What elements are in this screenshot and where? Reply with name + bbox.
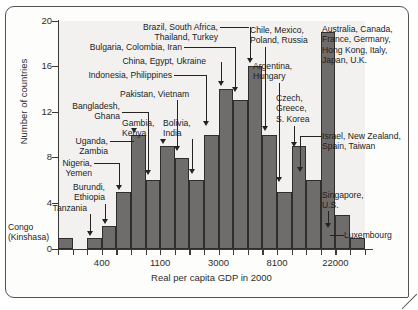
x-tick-7 bbox=[160, 250, 161, 255]
leader-bolivia bbox=[192, 139, 193, 170]
annotation-luxembourg: Luxembourg bbox=[344, 230, 406, 240]
annotation-burundi: Burundi, Ethiopia bbox=[40, 182, 105, 203]
x-tick-19 bbox=[335, 250, 336, 255]
arrow-tanzania bbox=[87, 231, 93, 236]
annotation-bulgaria: Bulgaria, Colombia, Iran bbox=[56, 42, 182, 52]
bar-3 bbox=[87, 238, 102, 249]
x-tick-20 bbox=[350, 250, 351, 255]
arrow-brazil bbox=[247, 58, 253, 63]
arrow-gambia bbox=[160, 139, 166, 144]
x-tick-12 bbox=[233, 250, 234, 255]
arrow-argentina bbox=[276, 177, 282, 182]
x-tick-13 bbox=[248, 250, 249, 255]
x-tick-15 bbox=[277, 250, 278, 255]
x-tick-3 bbox=[102, 250, 103, 255]
annotation-china: China, Egypt, Ukraine bbox=[96, 56, 206, 66]
arrow-czech bbox=[291, 142, 297, 147]
annotation-gambia: Gambia, Kenya bbox=[122, 118, 168, 139]
arrow-china bbox=[218, 81, 224, 86]
x-tick-2 bbox=[87, 250, 88, 255]
x-tick-label-8100: 8100 bbox=[266, 257, 287, 268]
x-tick-6 bbox=[146, 250, 147, 255]
x-tick-9 bbox=[189, 250, 190, 255]
annotation-czech: Czech, Greece, S. Korea bbox=[276, 93, 318, 124]
bar-14 bbox=[248, 66, 263, 249]
bar-11 bbox=[204, 135, 219, 249]
x-axis-title: Real per capita GDP in 2000 bbox=[58, 272, 365, 283]
bar-13 bbox=[233, 100, 248, 249]
arrow-singapore bbox=[325, 223, 331, 228]
x-tick-label-22000: 22000 bbox=[322, 257, 348, 268]
annotation-chile: Chile, Mexico, Poland, Russia bbox=[250, 25, 328, 46]
x-tick-5 bbox=[131, 250, 132, 255]
arrow-pakistan bbox=[174, 146, 180, 151]
annotation-singapore: Singapore, U.S. bbox=[322, 190, 374, 211]
arrow-israel bbox=[297, 167, 303, 172]
annotation-israel: Israel, New Zealand, Spain, Taiwan bbox=[322, 131, 416, 152]
leader-indonesia-v bbox=[206, 75, 207, 122]
leader-nigeria-h bbox=[94, 163, 119, 164]
arrow-bulgaria bbox=[232, 87, 238, 92]
bar-16 bbox=[277, 192, 292, 249]
bar-5 bbox=[116, 192, 131, 249]
x-tick-1 bbox=[73, 250, 74, 255]
arrow-chile bbox=[262, 126, 268, 131]
bar-17 bbox=[292, 146, 307, 249]
x-tick-label-400: 400 bbox=[94, 257, 110, 268]
bar-10 bbox=[189, 180, 204, 249]
leader-chile bbox=[265, 47, 266, 127]
arrow-burundi bbox=[102, 219, 108, 224]
annotation-congo: Congo (Kinshasa) bbox=[8, 222, 60, 243]
bar-12 bbox=[219, 89, 234, 249]
annotation-nigeria: Nigeria, Yemen bbox=[30, 158, 92, 179]
bar-15 bbox=[262, 135, 277, 249]
bar-6 bbox=[131, 135, 146, 249]
annotation-indonesia: Indonesia, Philippines bbox=[60, 70, 172, 80]
x-tick-4 bbox=[116, 250, 117, 255]
leader-czech bbox=[294, 126, 295, 143]
leader-brazil-h bbox=[220, 27, 249, 28]
annotation-tanzania: Tanzania bbox=[30, 203, 87, 213]
x-tick-8 bbox=[175, 250, 176, 255]
y-axis-title: Number of countries bbox=[18, 32, 29, 172]
arrow-indonesia bbox=[203, 121, 209, 126]
leader-nigeria-v bbox=[119, 163, 120, 186]
arrow-nigeria bbox=[116, 185, 122, 190]
leader-luxembourg bbox=[330, 235, 344, 236]
bar-9 bbox=[175, 158, 190, 249]
leader-israel-v bbox=[300, 136, 301, 168]
x-tick-10 bbox=[204, 250, 205, 255]
x-tick-21 bbox=[365, 250, 366, 255]
leader-indonesia-h bbox=[174, 75, 206, 76]
arrow-bangladesh bbox=[145, 170, 151, 175]
leader-china bbox=[221, 62, 222, 82]
annotation-bolivia: Bolivia, India bbox=[163, 118, 203, 139]
bar-18 bbox=[306, 180, 321, 249]
leader-burundi bbox=[105, 204, 106, 220]
bar-8 bbox=[160, 146, 175, 249]
x-tick-0 bbox=[58, 250, 59, 255]
x-tick-16 bbox=[292, 250, 293, 255]
leader-bulgaria-v bbox=[235, 47, 236, 88]
leader-bangladesh-h bbox=[122, 112, 148, 113]
arrow-bolivia bbox=[189, 169, 195, 174]
leader-israel-h bbox=[300, 136, 322, 137]
x-tick-label-3000: 3000 bbox=[208, 257, 229, 268]
annotation-argentina: Argentina, Hungary bbox=[253, 61, 305, 82]
histogram-figure: 20 16 12 8 4 0 Number of countries 400 1… bbox=[0, 0, 418, 310]
y-tick-label-0: 0 bbox=[22, 243, 52, 254]
leader-uganda-h bbox=[110, 141, 134, 142]
y-tick-label-20: 20 bbox=[22, 15, 52, 26]
annotation-uganda: Uganda, Zambia bbox=[44, 136, 108, 157]
leader-tanzania bbox=[90, 214, 91, 232]
bar-7 bbox=[146, 180, 161, 249]
annotation-bangladesh: Bangladesh, Ghana bbox=[48, 101, 120, 122]
bar-4 bbox=[102, 226, 117, 249]
x-tick-18 bbox=[321, 250, 322, 255]
annotation-pakistan: Pakistan, Vietnam bbox=[120, 89, 212, 99]
leader-bulgaria-h bbox=[184, 47, 235, 48]
x-tick-17 bbox=[306, 250, 307, 255]
x-tick-14 bbox=[262, 250, 263, 255]
annotation-australia: Australia, Canada, France, Germany, Hong… bbox=[322, 24, 414, 65]
x-tick-11 bbox=[219, 250, 220, 255]
